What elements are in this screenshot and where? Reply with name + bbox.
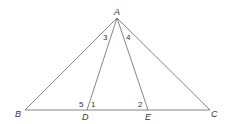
point-label-b: B [15,109,21,119]
segment-ae [117,18,148,110]
segment-ac [117,18,210,110]
angle-label-3: 3 [103,33,108,42]
point-label-e: E [145,112,152,122]
point-label-c: C [211,109,218,119]
angle-label-4: 4 [126,33,131,42]
angle-label-5: 5 [79,100,84,109]
segment-ad [87,18,117,110]
triangle-diagram: A B C D E 1 2 3 4 5 [0,0,226,124]
point-label-d: D [82,112,89,122]
segment-ab [25,18,117,110]
point-label-a: A [113,7,120,17]
angle-label-1: 1 [91,100,96,109]
angle-label-2: 2 [138,100,143,109]
